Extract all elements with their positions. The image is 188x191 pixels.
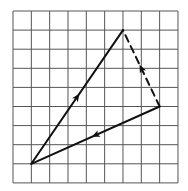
arrowhead-icon xyxy=(90,130,100,140)
grid xyxy=(13,11,178,183)
vector-triangle-diagram xyxy=(0,0,188,191)
vectors xyxy=(31,30,159,164)
